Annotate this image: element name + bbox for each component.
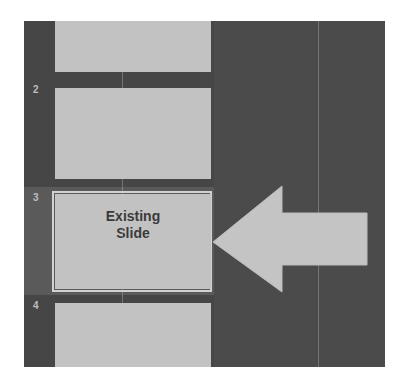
powerpoint-window: 2 3 Existing Slide 4	[24, 21, 385, 367]
left-arrow-icon	[24, 21, 385, 367]
